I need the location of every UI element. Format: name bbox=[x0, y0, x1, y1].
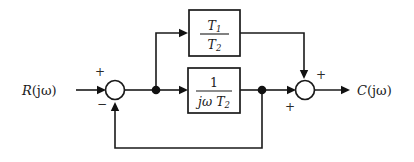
right-sum-plus-top-sign: + bbox=[316, 68, 326, 82]
branch-dot-forward-split bbox=[152, 86, 161, 95]
output-signal-label: C(jω) bbox=[357, 83, 392, 98]
arrowhead-into-gain bbox=[179, 29, 188, 37]
right-sum-plus-left-sign: + bbox=[285, 100, 295, 114]
block-diagram-canvas: T1 T2 1 jω T2 + − + + R(jω) C(jω) bbox=[0, 0, 414, 162]
right-summing-junction bbox=[296, 81, 315, 100]
integrator-block-numerator: 1 bbox=[210, 75, 218, 90]
arrowhead-gain-into-right-sum bbox=[300, 70, 308, 79]
left-summing-junction bbox=[106, 81, 125, 100]
arrowhead-output bbox=[341, 86, 350, 94]
left-sum-plus-sign: + bbox=[95, 65, 105, 79]
arrowhead-into-integrator bbox=[179, 86, 188, 94]
wire-gain-to-right-sum bbox=[240, 33, 304, 77]
branch-dot-feedback-tap bbox=[258, 86, 267, 95]
arrowhead-into-right-sum bbox=[287, 86, 296, 94]
left-sum-minus-sign: − bbox=[97, 97, 107, 111]
wire-branch-up-to-gain bbox=[156, 33, 186, 90]
input-signal-label: R(jω) bbox=[21, 83, 57, 98]
arrowhead-feedback-into-sum bbox=[111, 102, 119, 111]
block-diagram-figure: T1 T2 1 jω T2 + − + + R(jω) C(jω) bbox=[0, 0, 414, 162]
